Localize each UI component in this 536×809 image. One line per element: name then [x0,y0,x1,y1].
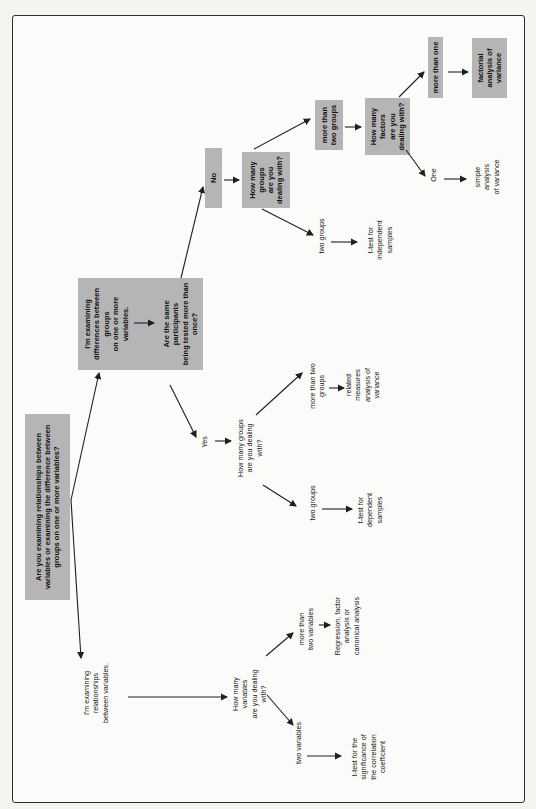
node-more-than-two-groups-yes: more than two groups [308,363,327,409]
node-how-many-groups-no: How many groups are you dealing with? [242,152,290,208]
scanned-figure-page: Are you examining relationships between … [0,0,536,809]
node-factorial-anova: factorial analysis of variance [472,38,507,98]
node-ttest-independent: t-test for independent samples [366,220,394,260]
node-two-groups-yes: two groups [308,485,317,520]
node-more-than-two-groups-no: more than two groups [315,100,343,150]
node-one: One [429,168,438,182]
node-regression-analysis: Regression, factor analysis or canonical… [333,597,361,655]
node-no: No [205,148,222,208]
node-how-many-groups-yes: How many groups are you dealing with? [236,419,264,477]
node-more-than-two-variables: more than two variables [297,608,316,650]
node-how-many-variables: How many variables are you dealing with? [231,669,268,718]
node-same-participants-question: Are the same participants being tested m… [162,283,200,366]
flowchart-canvas: Are you examining relationships between … [0,0,536,809]
node-ttest-dependent: t-test for dependent samples [356,493,384,527]
node-two-groups-no: two groups [317,218,326,253]
node-yes: Yes [200,436,209,448]
node-ttest-correlation: t-test for the significance of the corre… [350,734,387,780]
node-examining-differences: I'm examining differences between groups… [83,288,130,360]
node-two-variables: two variables [294,722,303,764]
node-related-measures-anova: related measures analysis of variance [344,368,381,402]
node-root-question: Are you examining relationships between … [25,414,70,600]
node-more-than-one: more than one [428,37,443,98]
node-how-many-factors: How many factors are you dealing with? [365,98,410,155]
node-simple-anova: simple analysis of variance [473,159,501,194]
node-examining-relationships: I'm examining relationships between vari… [82,663,110,723]
